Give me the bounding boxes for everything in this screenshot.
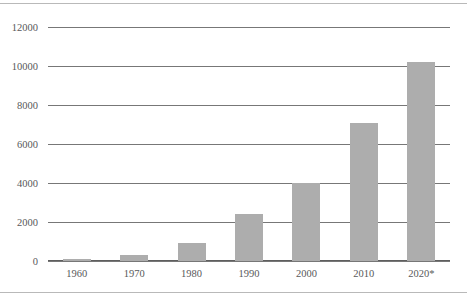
x-tick-label: 1990 bbox=[220, 268, 277, 279]
bar[interactable] bbox=[292, 183, 320, 261]
y-tick-label: 2000 bbox=[0, 217, 38, 228]
bar-slot bbox=[48, 27, 105, 261]
x-tick-label: 1960 bbox=[48, 268, 105, 279]
x-tick-label: 2000 bbox=[278, 268, 335, 279]
y-tick-label: 0 bbox=[0, 256, 38, 267]
bar[interactable] bbox=[235, 214, 263, 261]
x-tick-label: 1970 bbox=[105, 268, 162, 279]
bar[interactable] bbox=[120, 255, 148, 261]
x-tick-label: 2020* bbox=[393, 268, 450, 279]
y-tick-label: 12000 bbox=[0, 22, 38, 33]
bar[interactable] bbox=[407, 62, 435, 261]
y-tick-label: 10000 bbox=[0, 61, 38, 72]
y-tick-label: 8000 bbox=[0, 100, 38, 111]
bar-slot bbox=[278, 27, 335, 261]
x-tick-label: 1980 bbox=[163, 268, 220, 279]
bar-slot bbox=[335, 27, 392, 261]
bar-slot bbox=[393, 27, 450, 261]
bar[interactable] bbox=[63, 259, 91, 261]
page-bottom-rule bbox=[0, 292, 467, 293]
bar[interactable] bbox=[350, 123, 378, 261]
bar-slot bbox=[163, 27, 220, 261]
page-top-rule bbox=[0, 3, 467, 4]
bar-slot bbox=[220, 27, 277, 261]
y-tick-label: 4000 bbox=[0, 178, 38, 189]
x-tick-label: 2010 bbox=[335, 268, 392, 279]
bar-chart-figure: 020004000600080001000012000 196019701980… bbox=[0, 0, 467, 297]
bar-slot bbox=[105, 27, 162, 261]
y-tick-label: 6000 bbox=[0, 139, 38, 150]
gridline bbox=[48, 261, 450, 262]
bars-group bbox=[48, 27, 450, 261]
bar[interactable] bbox=[178, 243, 206, 261]
